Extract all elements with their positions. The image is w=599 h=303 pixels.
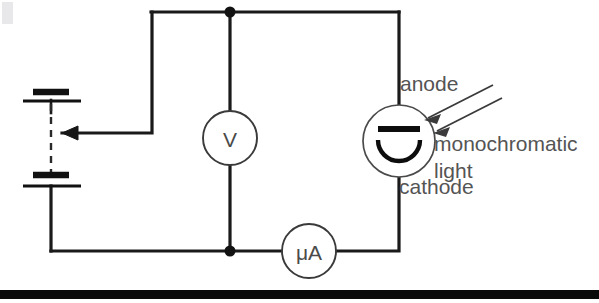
scan-artifact-speck xyxy=(2,2,13,24)
phototube[interactable] xyxy=(363,105,435,177)
circuit-diagram-figure: V μA anode cathode mo xyxy=(0,0,599,303)
photoelectric-circuit-svg: V μA anode cathode mo xyxy=(0,0,599,303)
anode-label: anode xyxy=(400,72,458,95)
monochromatic-light-label-line2: light xyxy=(434,159,473,182)
junction-dot-top xyxy=(225,7,236,18)
phototube-envelope xyxy=(363,105,435,177)
junction-dot-bottom xyxy=(225,246,236,257)
voltmeter-label: V xyxy=(223,128,237,151)
monochromatic-light-label-line1: monochromatic xyxy=(434,132,578,155)
bottom-black-bar xyxy=(0,290,599,299)
voltmeter[interactable]: V xyxy=(203,111,257,165)
microammeter[interactable]: μA xyxy=(282,224,336,278)
microammeter-label: μA xyxy=(296,241,322,264)
